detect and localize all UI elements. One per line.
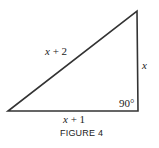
figure-4: x + 2 x 90° x + 1 FIGURE 4 xyxy=(0,0,159,148)
base-label: x + 1 xyxy=(63,114,85,125)
right-angle-label: 90° xyxy=(119,98,134,109)
vertical-leg-label: x xyxy=(142,60,147,71)
figure-caption: FIGURE 4 xyxy=(60,128,103,138)
right-triangle xyxy=(0,0,159,148)
hypotenuse-label: x + 2 xyxy=(45,46,67,57)
